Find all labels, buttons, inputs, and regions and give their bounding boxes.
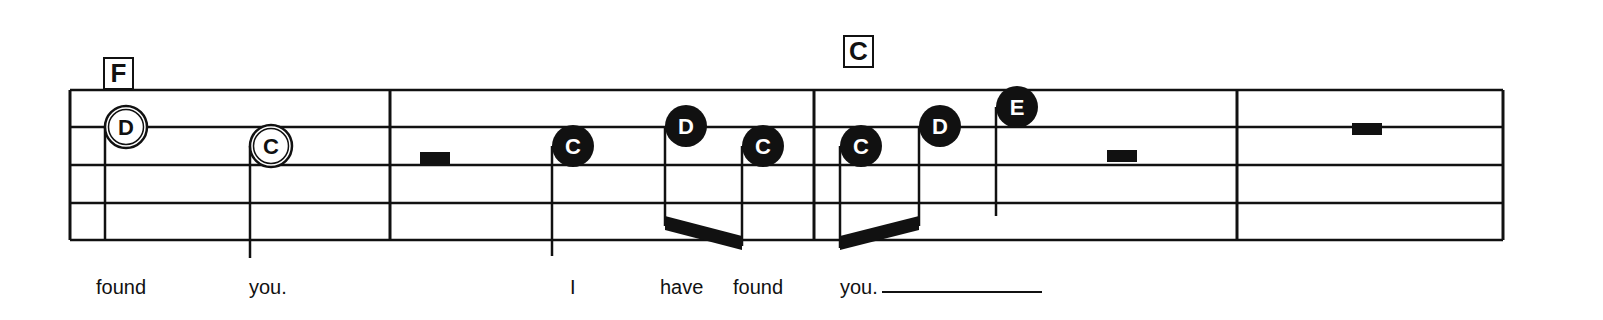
lyric-word: you.: [840, 276, 878, 299]
lyric-word: have: [660, 276, 703, 299]
lyric-word: I: [570, 276, 576, 299]
note-letter: C: [263, 134, 279, 159]
chord-symbol: C: [843, 35, 874, 68]
lyric-word: found: [733, 276, 783, 299]
note-letter: D: [118, 115, 134, 140]
beam-2: [840, 216, 919, 250]
note-letter: C: [755, 134, 771, 159]
music-score: DCCDCCDE: [0, 0, 1603, 320]
note-letter: D: [932, 114, 948, 139]
note-letter: C: [853, 134, 869, 159]
half-rest: [420, 152, 450, 165]
beam-1: [665, 216, 742, 250]
lyric-word: you.: [249, 276, 287, 299]
whole-rest: [1352, 123, 1382, 135]
lyric-extender-line: [882, 291, 1042, 293]
lyric-word: found: [96, 276, 146, 299]
note-letter: E: [1010, 95, 1025, 120]
note-letter: D: [678, 114, 694, 139]
note-letter: C: [565, 134, 581, 159]
half-rest: [1107, 150, 1137, 162]
chord-symbol: F: [103, 57, 134, 90]
